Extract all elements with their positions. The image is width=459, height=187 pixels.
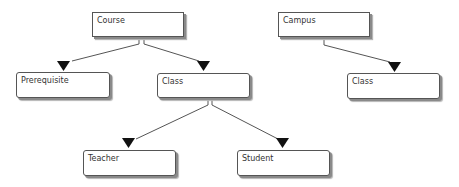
node-class-left[interactable]: Class	[157, 73, 250, 98]
node-class-right[interactable]: Class	[347, 73, 440, 99]
node-student[interactable]: Student	[237, 150, 330, 176]
arrowhead-prerequisite-icon	[57, 61, 70, 71]
node-label: Class	[162, 77, 183, 86]
arrowhead-teacher-icon	[122, 138, 135, 148]
edge-class-student	[212, 99, 278, 139]
edge-course-prerequisite	[72, 37, 139, 61]
arrowhead-class-right-icon	[388, 62, 401, 72]
node-course[interactable]: Course	[92, 12, 184, 37]
node-label: Class	[352, 77, 373, 86]
node-label: Student	[242, 154, 274, 163]
edge-course-class	[144, 37, 199, 61]
arrowhead-student-icon	[276, 138, 289, 148]
node-label: Course	[97, 16, 125, 25]
node-campus[interactable]: Campus	[278, 12, 370, 37]
arrowhead-class-left-icon	[197, 61, 210, 71]
node-label: Teacher	[88, 154, 119, 163]
node-label: Prerequisite	[21, 76, 69, 85]
node-prerequisite[interactable]: Prerequisite	[16, 72, 110, 98]
node-label: Campus	[283, 16, 316, 25]
edge-campus-class	[324, 37, 390, 62]
node-teacher[interactable]: Teacher	[83, 150, 176, 176]
edge-class-teacher	[136, 99, 208, 139]
